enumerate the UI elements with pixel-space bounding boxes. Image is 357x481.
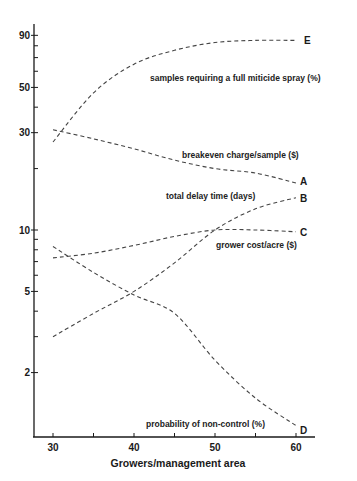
x-tick-label: 30: [47, 442, 59, 453]
y-tick-label: 50: [19, 82, 31, 93]
series-end-label-d: D: [300, 425, 307, 436]
y-tick-label: 30: [19, 127, 31, 138]
series-end-label-b: B: [300, 193, 307, 204]
y-tick-label: 5: [24, 286, 30, 297]
series-line-d: [53, 247, 296, 426]
x-tick-label: 50: [209, 442, 221, 453]
series-label-c: grower cost/acre ($): [216, 240, 297, 250]
series-end-label-e: E: [304, 35, 311, 46]
y-tick-label: 90: [19, 30, 31, 41]
series-label-a: breakeven charge/sample ($): [182, 150, 299, 160]
series-label-d: probability of non-control (%): [146, 419, 265, 429]
x-tick-label: 60: [290, 442, 302, 453]
x-tick-label: 40: [128, 442, 140, 453]
series-line-e: [53, 40, 296, 142]
series-end-label-a: A: [300, 176, 307, 187]
x-axis-title: Growers/management area: [111, 457, 246, 469]
series-end-label-c: C: [300, 227, 307, 238]
log-line-chart: 2510305090 30405060 Growers/management a…: [0, 0, 357, 481]
x-axis-tick-labels: 30405060: [47, 442, 302, 453]
y-tick-label: 2: [24, 367, 30, 378]
data-series: [53, 40, 296, 425]
y-tick-label: 10: [19, 225, 31, 236]
series-label-e: samples requiring a full miticide spray …: [150, 73, 321, 83]
y-axis-tick-labels: 2510305090: [19, 30, 31, 378]
series-line-b: [53, 198, 296, 337]
series-label-b: total delay time (days): [166, 191, 255, 201]
y-axis: 2510305090: [19, 24, 38, 437]
x-axis: 30405060 Growers/management area: [33, 433, 315, 469]
